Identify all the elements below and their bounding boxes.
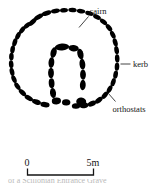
scale-end-label: 5m — [87, 157, 100, 168]
kerb-ring-stones — [9, 8, 120, 110]
plan-drawing: cairn kerb orthostats 0 5m — [0, 0, 159, 187]
orthostat-chamber-stones — [48, 43, 86, 106]
scale-start-label: 0 — [25, 157, 30, 168]
cairn-leader-line — [79, 17, 89, 28]
caption-clipped-strip: of a Scillonian Entrance Grave — [0, 179, 159, 187]
scale-bar: 0 5m — [25, 157, 100, 176]
scale-bar-rule — [28, 169, 94, 176]
orthostats-leader-line — [108, 93, 116, 102]
label-kerb: kerb — [133, 59, 148, 69]
figure-kerb-cairn-plan: cairn kerb orthostats 0 5m — [0, 0, 159, 187]
caption-fragment: of a Scillonian Entrance Grave — [8, 179, 107, 185]
label-orthostats: orthostats — [113, 104, 146, 114]
label-cairn: cairn — [90, 6, 108, 16]
